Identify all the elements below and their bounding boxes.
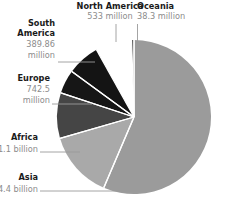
label-africa-value: 1.1 billion xyxy=(0,144,38,154)
label-south-america-value-line2: million xyxy=(28,50,55,60)
label-asia-value: 4.4 billion xyxy=(0,184,38,194)
label-oceania-name: Oceania xyxy=(137,1,174,11)
label-asia-name: Asia xyxy=(18,172,38,182)
label-africa-name: Africa xyxy=(11,132,38,142)
label-oceania-value: 38.3 million xyxy=(137,11,185,21)
label-north-america-value: 533 million xyxy=(87,11,133,21)
label-europe-value-line2: million xyxy=(23,95,50,105)
label-south-america-name-line2: America xyxy=(17,28,55,38)
pie-chart-svg: North America 533 million Oceania 38.3 m… xyxy=(0,0,225,202)
label-south-america-name-line1: South xyxy=(28,18,55,28)
label-europe-value-line1: 742.5 xyxy=(27,84,50,94)
pie-chart-figure: North America 533 million Oceania 38.3 m… xyxy=(0,0,225,202)
label-south-america-value-line1: 389.86 xyxy=(26,39,55,49)
label-north-america-name: North America xyxy=(77,1,144,11)
label-europe-name: Europe xyxy=(18,73,51,83)
